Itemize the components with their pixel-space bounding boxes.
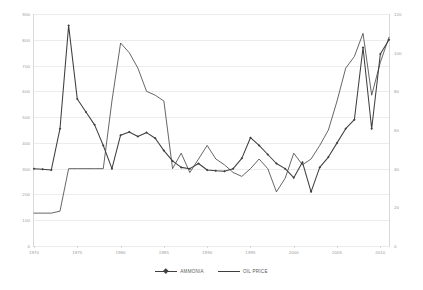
- series-marker: [370, 127, 373, 130]
- series-marker: [59, 127, 62, 130]
- legend-swatch: [155, 268, 177, 274]
- series-marker: [362, 46, 365, 49]
- x-axis-tick-mark: [250, 246, 251, 248]
- chart-legend: AMMONIAOIL PRICE: [0, 268, 423, 274]
- y-axis-left-tick-label: 800: [22, 37, 30, 42]
- x-axis-tick-label: 1975: [72, 250, 82, 255]
- x-axis-tick-label: 1970: [29, 250, 39, 255]
- series-marker: [33, 167, 36, 170]
- x-axis-tick-mark: [207, 246, 208, 248]
- x-axis-tick-mark: [121, 246, 122, 248]
- x-axis-tick-label: 2005: [332, 250, 342, 255]
- x-axis-tick-mark: [34, 246, 35, 248]
- y-axis-left-tick-label: 100: [22, 218, 30, 223]
- series-marker: [67, 24, 70, 27]
- x-axis-tick-label: 2000: [289, 250, 299, 255]
- series-marker: [223, 170, 226, 173]
- x-axis-tick-mark: [164, 246, 165, 248]
- legend-swatch: [218, 268, 240, 274]
- dual-axis-line-chart: 0100200300400500600700800900 02040608010…: [0, 0, 423, 290]
- legend-label: OIL PRICE: [243, 269, 268, 274]
- legend-label: AMMONIA: [180, 269, 204, 274]
- y-axis-right-tick-label: 20: [394, 205, 399, 210]
- x-axis-tick-mark: [337, 246, 338, 248]
- series-line-oil-price: [34, 33, 389, 213]
- plot-area: 0100200300400500600700800900 02040608010…: [33, 14, 390, 247]
- x-axis-tick-mark: [380, 246, 381, 248]
- x-axis-tick-label: 1995: [245, 250, 255, 255]
- series-marker: [50, 169, 53, 172]
- y-axis-left-tick-label: 300: [22, 166, 30, 171]
- x-axis-tick-label: 1985: [159, 250, 169, 255]
- series-marker: [119, 134, 122, 137]
- y-axis-left-tick-label: 500: [22, 115, 30, 120]
- x-axis-tick-mark: [77, 246, 78, 248]
- y-axis-right-tick-label: 80: [394, 89, 399, 94]
- legend-entry[interactable]: AMMONIA: [155, 268, 204, 274]
- x-axis-tick-label: 1980: [115, 250, 125, 255]
- y-axis-left-tick-label: 900: [22, 12, 30, 17]
- y-axis-left-tick-label: 600: [22, 89, 30, 94]
- x-axis-tick-label: 2010: [375, 250, 385, 255]
- y-axis-left-tick-label: 200: [22, 192, 30, 197]
- y-axis-left-tick-label: 700: [22, 63, 30, 68]
- series-line-ammonia: [34, 26, 389, 192]
- series-marker: [41, 168, 44, 171]
- y-axis-right-tick-label: 40: [394, 166, 399, 171]
- y-axis-right-tick-label: 60: [394, 128, 399, 133]
- series-layer: [34, 14, 389, 246]
- y-axis-left-tick-label: 400: [22, 140, 30, 145]
- y-axis-right-tick-label: 0: [394, 244, 397, 249]
- series-marker: [215, 169, 218, 172]
- legend-entry[interactable]: OIL PRICE: [218, 268, 268, 274]
- x-axis-tick-label: 1990: [202, 250, 212, 255]
- y-axis-left-tick-label: 0: [27, 244, 30, 249]
- x-axis-tick-mark: [294, 246, 295, 248]
- y-axis-right-tick-label: 120: [394, 12, 402, 17]
- y-axis-right-tick-label: 100: [394, 50, 402, 55]
- legend-marker-diamond-icon: [164, 268, 169, 273]
- gridline: [34, 246, 389, 247]
- series-marker: [310, 191, 313, 194]
